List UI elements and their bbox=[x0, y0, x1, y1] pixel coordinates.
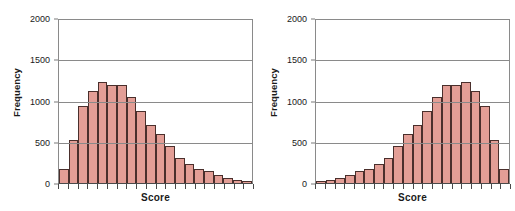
y-axis-ticks-left: 0500100015002000 bbox=[22, 19, 54, 184]
x-tick-mark bbox=[68, 184, 69, 189]
histogram-bar bbox=[165, 146, 175, 183]
x-tick-mark bbox=[364, 184, 365, 189]
x-tick-mark bbox=[204, 184, 205, 189]
x-tick-mark bbox=[126, 184, 127, 189]
x-tick-mark bbox=[354, 184, 355, 189]
y-axis-label-right-text: Frequency bbox=[268, 68, 279, 117]
x-tick-mark bbox=[117, 184, 118, 189]
plot-area-left bbox=[58, 19, 253, 184]
x-tick-mark bbox=[156, 184, 157, 189]
histogram-bar bbox=[499, 169, 509, 183]
y-axis-ticks-right: 0500100015002000 bbox=[279, 19, 311, 184]
y-tick-label: 0 bbox=[302, 179, 307, 189]
histogram-bar bbox=[335, 178, 345, 183]
x-tick-mark bbox=[87, 184, 88, 189]
x-tick-mark bbox=[491, 184, 492, 189]
gridline bbox=[316, 60, 509, 61]
x-tick-mark bbox=[403, 184, 404, 189]
y-tick-label: 500 bbox=[35, 138, 50, 148]
y-tick-label: 2000 bbox=[30, 14, 50, 24]
x-axis-ticks-left bbox=[58, 184, 253, 189]
histogram-bar bbox=[156, 134, 166, 183]
histogram-bar bbox=[136, 111, 146, 183]
histogram-bar bbox=[393, 146, 403, 183]
histogram-bar bbox=[364, 169, 374, 183]
histogram-bar bbox=[374, 164, 384, 183]
y-tick-label: 1000 bbox=[30, 97, 50, 107]
histogram-bar bbox=[442, 85, 452, 183]
y-tick-label: 0 bbox=[45, 179, 50, 189]
x-tick-mark bbox=[146, 184, 147, 189]
x-tick-mark bbox=[413, 184, 414, 189]
histogram-bar bbox=[403, 134, 413, 183]
histogram-bar bbox=[107, 85, 117, 183]
histogram-bar bbox=[316, 181, 326, 183]
histogram-bar bbox=[233, 180, 243, 183]
x-axis-label-right: Score bbox=[315, 192, 510, 203]
histogram-bar bbox=[422, 111, 432, 183]
x-tick-mark bbox=[344, 184, 345, 189]
two-panel-histogram-figure: Frequency 0500100015002000 Score Frequen… bbox=[0, 0, 515, 211]
x-tick-mark bbox=[78, 184, 79, 189]
x-tick-mark bbox=[383, 184, 384, 189]
histogram-bar bbox=[384, 158, 394, 183]
x-tick-mark bbox=[510, 184, 511, 189]
x-tick-mark bbox=[195, 184, 196, 189]
x-tick-mark bbox=[393, 184, 394, 189]
y-tick-label: 500 bbox=[292, 138, 307, 148]
x-axis-ticks-right bbox=[315, 184, 510, 189]
histogram-bar bbox=[461, 82, 471, 183]
panel-left-skewed: Frequency 0500100015002000 Score bbox=[257, 0, 514, 211]
histogram-bar bbox=[480, 106, 490, 183]
x-tick-mark bbox=[234, 184, 235, 189]
x-tick-mark bbox=[500, 184, 501, 189]
histogram-bar bbox=[146, 125, 156, 183]
histogram-bar bbox=[451, 85, 461, 183]
x-tick-mark bbox=[374, 184, 375, 189]
x-tick-mark bbox=[214, 184, 215, 189]
histogram-bar bbox=[88, 91, 98, 183]
x-tick-mark bbox=[471, 184, 472, 189]
y-axis-label-left-text: Frequency bbox=[11, 68, 22, 117]
gridline bbox=[59, 60, 252, 61]
histogram-bar bbox=[432, 97, 442, 183]
y-tick-label: 1500 bbox=[30, 55, 50, 65]
x-tick-mark bbox=[315, 184, 316, 189]
x-tick-mark bbox=[165, 184, 166, 189]
histogram-bar bbox=[59, 169, 69, 183]
histogram-bar bbox=[345, 175, 355, 183]
histogram-bar bbox=[214, 175, 224, 183]
histogram-bar bbox=[117, 85, 127, 183]
x-tick-mark bbox=[253, 184, 254, 189]
histogram-bar bbox=[98, 82, 108, 183]
x-tick-mark bbox=[461, 184, 462, 189]
x-tick-mark bbox=[185, 184, 186, 189]
histogram-bar bbox=[490, 140, 500, 183]
x-tick-mark bbox=[107, 184, 108, 189]
histogram-bar bbox=[204, 171, 214, 183]
histogram-bar bbox=[185, 164, 195, 183]
histogram-bar bbox=[413, 125, 423, 183]
gridline bbox=[59, 102, 252, 103]
x-tick-mark bbox=[325, 184, 326, 189]
x-axis-label-left: Score bbox=[58, 192, 253, 203]
y-tick-label: 2000 bbox=[287, 14, 307, 24]
x-tick-mark bbox=[422, 184, 423, 189]
histogram-bar bbox=[326, 180, 336, 183]
histogram-bar bbox=[69, 140, 79, 183]
histogram-bar bbox=[175, 158, 185, 183]
x-tick-mark bbox=[335, 184, 336, 189]
histogram-bar bbox=[223, 178, 233, 183]
plot-area-right bbox=[315, 19, 510, 184]
x-tick-mark bbox=[442, 184, 443, 189]
gridline bbox=[59, 143, 252, 144]
x-tick-mark bbox=[136, 184, 137, 189]
x-tick-mark bbox=[432, 184, 433, 189]
y-tick-label: 1000 bbox=[287, 97, 307, 107]
histogram-bar bbox=[78, 106, 88, 183]
y-tick-label: 1500 bbox=[287, 55, 307, 65]
x-tick-mark bbox=[224, 184, 225, 189]
x-tick-mark bbox=[452, 184, 453, 189]
x-tick-mark bbox=[481, 184, 482, 189]
histogram-bar bbox=[194, 169, 204, 183]
